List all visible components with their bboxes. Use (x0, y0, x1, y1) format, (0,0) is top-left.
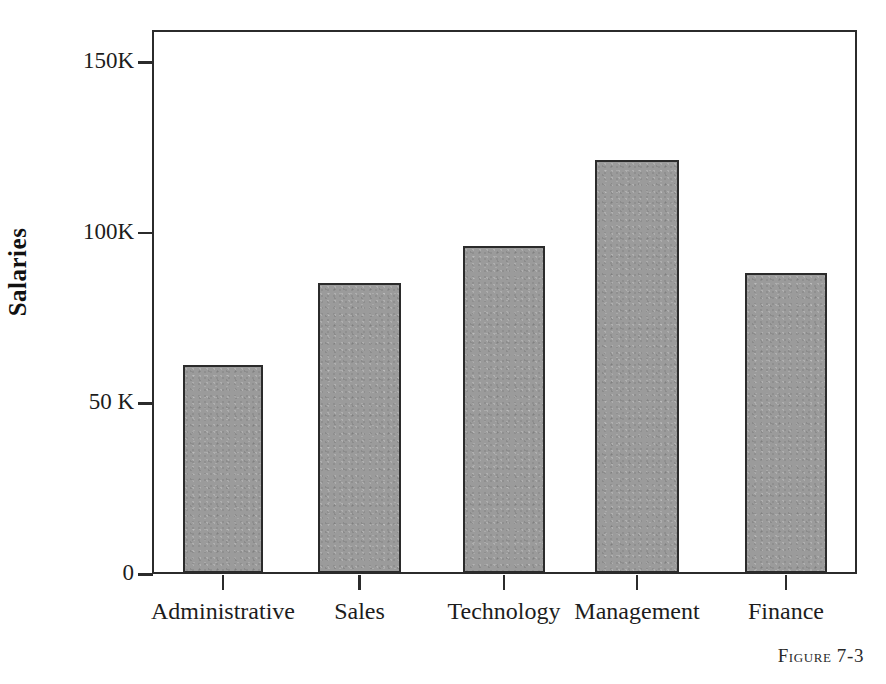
y-tick-mark (138, 573, 153, 576)
figure-caption: Figure 7-3 (778, 645, 864, 667)
x-tick-mark (503, 575, 506, 590)
plot-area (152, 30, 857, 574)
y-tick-mark (138, 402, 153, 405)
bar-administrative (183, 365, 263, 573)
x-tick-mark (358, 575, 361, 590)
bar-management (595, 160, 679, 573)
x-tick-mark (785, 575, 788, 590)
bar-finance (745, 273, 827, 573)
figure-container: Salaries 050 K100K150K AdministrativeSal… (0, 0, 886, 684)
y-tick-label: 150K (83, 48, 134, 74)
y-tick-label: 50 K (89, 389, 134, 415)
y-tick-label: 0 (123, 560, 135, 586)
x-tick-mark (222, 575, 225, 590)
y-axis-title: Salaries (4, 192, 32, 352)
x-tick-mark (636, 575, 639, 590)
y-tick-mark (138, 61, 153, 64)
x-axis-label-finance: Finance (676, 598, 886, 624)
y-tick-mark (138, 232, 153, 235)
bar-sales (318, 283, 401, 573)
y-tick-label: 100K (83, 219, 134, 245)
bar-technology (463, 246, 545, 574)
